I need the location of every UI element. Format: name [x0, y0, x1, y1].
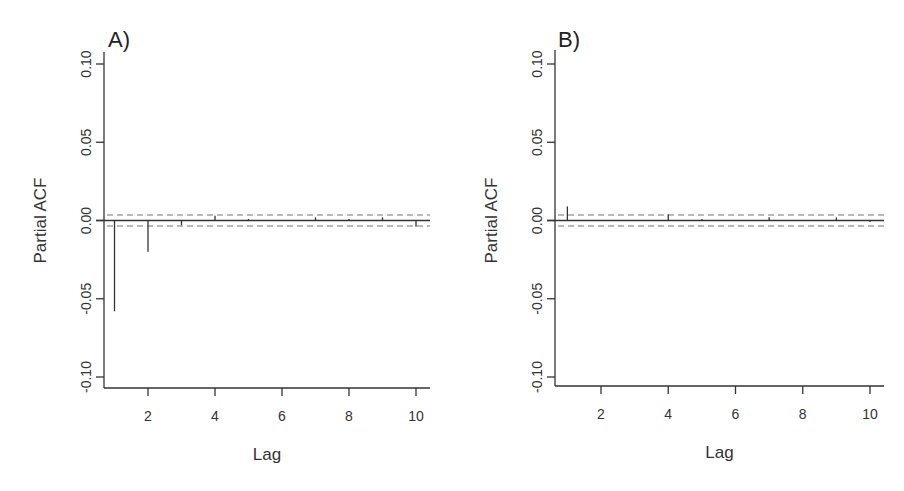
y-tick-label: 0.00: [78, 207, 94, 234]
y-tick-label: -0.10: [78, 361, 94, 393]
x-tick-label: 4: [211, 408, 219, 424]
y-tick-label: 0.10: [78, 50, 94, 77]
x-tick-label: 6: [278, 408, 286, 424]
y-tick-label: 0.05: [529, 128, 545, 155]
y-tick-label: 0.10: [529, 50, 545, 77]
y-tick-label: -0.05: [78, 283, 94, 315]
y-tick-label: 0.05: [78, 128, 94, 155]
x-tick-label: 2: [144, 408, 152, 424]
x-tick-label: 8: [345, 408, 353, 424]
x-tick-label: 4: [664, 406, 672, 422]
y-axis-label: Partial ACF: [482, 178, 501, 264]
x-tick-label: 6: [732, 406, 740, 422]
y-tick-label: -0.05: [529, 283, 545, 315]
x-axis-label: Lag: [705, 443, 733, 462]
x-tick-label: 10: [862, 406, 878, 422]
panel-label: A): [108, 27, 130, 52]
panel-label: B): [558, 27, 580, 52]
x-tick-label: 10: [408, 408, 424, 424]
x-tick-label: 2: [597, 406, 605, 422]
panel-a: 0.100.050.00-0.05-0.10246810LagPartial A…: [31, 27, 430, 464]
y-tick-label: 0.00: [529, 207, 545, 234]
y-axis-label: Partial ACF: [31, 178, 50, 264]
pacf-figure: 0.100.050.00-0.05-0.10246810LagPartial A…: [0, 0, 904, 491]
x-tick-label: 8: [799, 406, 807, 422]
x-axis-label: Lag: [253, 445, 281, 464]
y-tick-label: -0.10: [529, 361, 545, 393]
panel-b: 0.100.050.00-0.05-0.10246810LagPartial A…: [482, 27, 884, 462]
